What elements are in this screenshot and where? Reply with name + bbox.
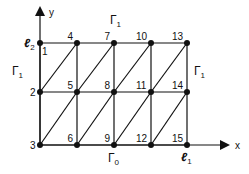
mesh-node-13 bbox=[184, 40, 190, 46]
mesh-node-7 bbox=[111, 40, 117, 46]
y-axis-arrow-icon bbox=[35, 6, 45, 16]
gamma1-left-label: Γ1 bbox=[12, 64, 24, 80]
mesh-node-4 bbox=[74, 40, 80, 46]
node-label: 12 bbox=[136, 133, 148, 144]
l2-label: ℓ2 bbox=[24, 36, 35, 52]
x-axis-arrow-icon bbox=[220, 140, 230, 150]
mesh-node-2 bbox=[37, 89, 43, 95]
mesh-node-3 bbox=[37, 142, 43, 148]
mesh-node-10 bbox=[148, 40, 154, 46]
node-label: 3 bbox=[30, 140, 36, 151]
node-label: 7 bbox=[105, 31, 111, 42]
node-label: 14 bbox=[172, 80, 184, 91]
node-label: 15 bbox=[172, 133, 184, 144]
node-label: 2 bbox=[30, 87, 36, 98]
node-label: 4 bbox=[68, 31, 74, 42]
node-label: 5 bbox=[68, 80, 74, 91]
x-axis-label: x bbox=[235, 140, 240, 151]
node-label: 11 bbox=[136, 80, 147, 91]
mesh-node-14 bbox=[184, 89, 190, 95]
node-labels: 123456789101112131415 bbox=[30, 31, 184, 151]
node-label: 1 bbox=[42, 46, 48, 57]
mesh-node-15 bbox=[184, 142, 190, 148]
l1-label: ℓ1 bbox=[181, 150, 192, 166]
mesh-node-12 bbox=[148, 142, 154, 148]
mesh-diagram: y x 123456789101112131415 Γ1 Γ1 Γ1 Γ0 ℓ2… bbox=[0, 0, 249, 174]
gamma0-bottom-label: Γ0 bbox=[108, 151, 120, 167]
y-axis-label: y bbox=[49, 7, 54, 18]
node-label: 6 bbox=[68, 133, 74, 144]
mesh-node-11 bbox=[148, 89, 154, 95]
node-label: 13 bbox=[172, 31, 184, 42]
mesh-node-6 bbox=[74, 142, 80, 148]
mesh-node-9 bbox=[111, 142, 117, 148]
mesh-node-5 bbox=[74, 89, 80, 95]
node-label: 8 bbox=[105, 80, 111, 91]
gamma1-top-label: Γ1 bbox=[110, 13, 122, 29]
node-label: 10 bbox=[136, 31, 148, 42]
gamma1-right-label: Γ1 bbox=[194, 64, 206, 80]
mesh-node-8 bbox=[111, 89, 117, 95]
node-label: 9 bbox=[105, 133, 111, 144]
